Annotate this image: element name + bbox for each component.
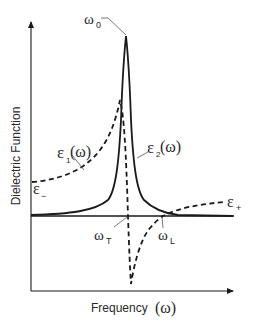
omegaL-subscript: L: [170, 236, 175, 246]
epsilon-plus-symbol: ε: [227, 193, 234, 210]
dielectric-function-diagram: ω 0 ε 1 (ω) ε 2 (ω) ε − ε + ω T: [0, 0, 253, 328]
x-axis-label-text: Frequency: [91, 301, 148, 315]
epsilon2-argument: (ω): [160, 138, 181, 156]
omegaT-subscript: T: [106, 236, 112, 246]
y-axis-label: Dielectric Function: [9, 107, 23, 206]
epsilon-plus-subscript: +: [236, 203, 241, 213]
omegaL-symbol: ω: [158, 227, 168, 243]
epsilon2-symbol: ε: [147, 138, 154, 157]
epsilon-plus-label: ε +: [227, 193, 241, 213]
omega0-symbol: ω: [84, 11, 94, 27]
omega0-label: ω 0: [84, 11, 101, 30]
omegaT-symbol: ω: [94, 227, 104, 243]
x-axis-label-symbol: (ω): [155, 299, 176, 317]
epsilon-minus-symbol: ε: [33, 180, 40, 197]
epsilon2-label: ε 2 (ω): [147, 138, 181, 159]
x-axis-label: Frequency (ω): [91, 299, 176, 317]
omegaT-leader: [114, 217, 127, 227]
epsilon2-curve: [31, 36, 233, 216]
epsilon1-label: ε 1 (ω): [57, 143, 91, 165]
omegaT-label: ω T: [94, 227, 112, 246]
epsilon-minus-label: ε −: [33, 180, 46, 201]
omega0-subscript: 0: [96, 20, 101, 30]
epsilon1-symbol: ε: [57, 143, 64, 162]
omega0-leader: [101, 18, 126, 35]
epsilon1-curve: [32, 100, 225, 284]
epsilon-minus-subscript: −: [41, 191, 46, 201]
omegaL-label: ω L: [158, 227, 175, 246]
epsilon1-argument: (ω): [70, 143, 91, 161]
